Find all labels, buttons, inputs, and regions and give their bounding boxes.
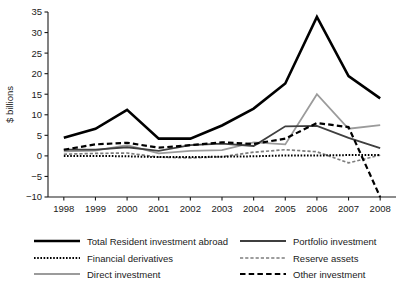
investment-line-chart: 35302520151050−5−10 19981999200020012002… bbox=[0, 0, 410, 285]
x-tick-label: 2007 bbox=[338, 203, 359, 214]
legend-label-reserve-assets: Reserve assets bbox=[293, 253, 359, 264]
y-tick-label: 5 bbox=[37, 130, 42, 141]
y-tick-label: 35 bbox=[31, 6, 42, 17]
y-tick-label: 0 bbox=[37, 150, 42, 161]
y-tick-label: −10 bbox=[26, 191, 42, 202]
x-tick-label: 2001 bbox=[148, 203, 169, 214]
legend-label-portfolio-investment: Portfolio investment bbox=[293, 236, 377, 247]
legend-label-other-investment: Other investment bbox=[293, 269, 366, 280]
y-tick-label: −5 bbox=[31, 171, 42, 182]
x-tick-label: 1999 bbox=[85, 203, 106, 214]
x-tick-label: 1998 bbox=[53, 203, 74, 214]
y-tick-label: 25 bbox=[31, 48, 42, 59]
x-tick-label: 2003 bbox=[211, 203, 232, 214]
x-tick-label: 2008 bbox=[370, 203, 391, 214]
x-tick-label: 2004 bbox=[243, 203, 264, 214]
x-tick-label: 2005 bbox=[275, 203, 296, 214]
chart-container: 35302520151050−5−10 19981999200020012002… bbox=[0, 0, 410, 285]
y-tick-label: 15 bbox=[31, 89, 42, 100]
y-tick-label: 10 bbox=[31, 109, 42, 120]
x-tick-label: 2002 bbox=[180, 203, 201, 214]
legend-label-financial-derivatives: Financial derivatives bbox=[87, 253, 173, 264]
x-tick-label: 2000 bbox=[117, 203, 138, 214]
y-axis-title: $ billions bbox=[4, 86, 15, 123]
x-tick-label: 2006 bbox=[306, 203, 327, 214]
y-tick-label: 30 bbox=[31, 27, 42, 38]
y-tick-label: 20 bbox=[31, 68, 42, 79]
legend-label-direct-investment: Direct investment bbox=[87, 269, 161, 280]
legend-label-total-resident-investment-abroad: Total Resident investment abroad bbox=[87, 236, 228, 247]
y-axis-title-text: $ billions bbox=[4, 86, 15, 123]
